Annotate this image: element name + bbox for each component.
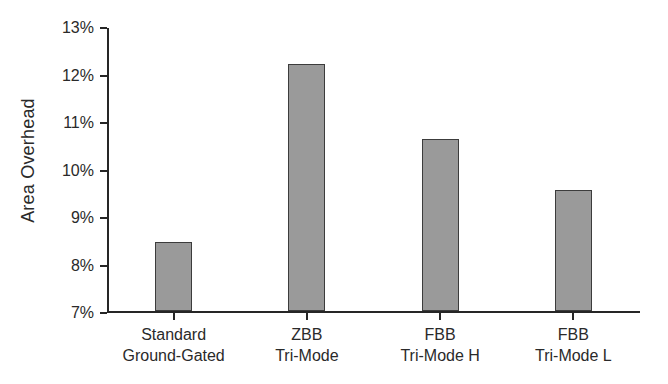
bar [288,64,325,311]
x-axis-label-line2: Tri-Mode L [507,345,640,366]
y-tick: 10% [100,170,107,172]
x-axis-label-line2: Ground-Gated [107,345,240,366]
y-axis-line [107,28,109,313]
y-tick-label: 12% [62,67,94,85]
y-tick: 11% [100,122,107,124]
bar [422,139,459,311]
x-tick [439,313,441,320]
y-tick-label: 8% [71,257,94,275]
x-axis-label-line1: Standard [141,326,206,343]
x-axis-label-line1: FBB [558,326,589,343]
y-axis-title: Area Overhead [18,71,39,251]
bar-chart-figure: Area Overhead 7%8%9%10%11%12%13% Standar… [0,0,668,384]
y-tick: 13% [100,27,107,29]
bar [155,242,192,311]
x-axis-label-line2: Tri-Mode [240,345,373,366]
y-tick: 8% [100,265,107,267]
y-tick: 12% [100,75,107,77]
y-tick: 7% [100,312,107,314]
x-tick [173,313,175,320]
y-tick-label: 11% [63,114,94,132]
x-axis-label: FBBTri-Mode H [374,324,507,366]
y-tick-label: 9% [71,209,94,227]
x-tick [572,313,574,320]
plot-area: 7%8%9%10%11%12%13% StandardGround-GatedZ… [107,28,640,313]
y-tick-label: 13% [62,19,94,37]
x-axis-line [107,311,640,313]
x-axis-label: FBBTri-Mode L [507,324,640,366]
x-axis-label: ZBBTri-Mode [240,324,373,366]
y-tick-label: 10% [62,162,94,180]
x-axis-label-line2: Tri-Mode H [374,345,507,366]
x-tick [306,313,308,320]
bar [555,190,592,311]
x-axis-label-line1: FBB [425,326,456,343]
y-tick: 9% [100,217,107,219]
x-axis-label-line1: ZBB [291,326,322,343]
y-tick-label: 7% [71,304,94,322]
x-axis-label: StandardGround-Gated [107,324,240,366]
